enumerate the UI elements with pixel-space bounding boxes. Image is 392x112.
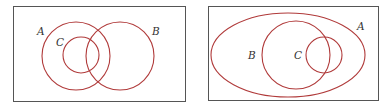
venn-right: A B C bbox=[209, 7, 379, 101]
label-c: C bbox=[56, 36, 64, 48]
venn-left: A B C bbox=[14, 7, 186, 102]
label-a: A bbox=[356, 20, 365, 32]
label-c: C bbox=[294, 49, 302, 61]
label-a: A bbox=[36, 25, 45, 37]
label-b: B bbox=[151, 25, 160, 37]
label-b: B bbox=[247, 49, 256, 61]
venn-diagrams: A B C A B C bbox=[0, 0, 392, 112]
